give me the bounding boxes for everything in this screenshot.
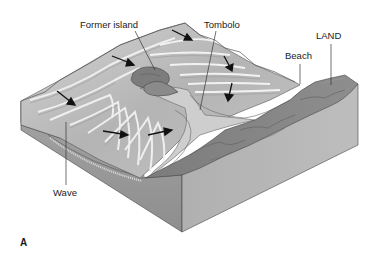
label-land: LAND (316, 31, 341, 41)
tombolo-diagram: Former island Tombolo Beach LAND Wave A (0, 0, 383, 253)
label-tombolo: Tombolo (204, 20, 240, 30)
label-beach: Beach (285, 51, 312, 61)
label-former-island: Former island (80, 20, 138, 30)
panel-letter: A (20, 237, 27, 248)
label-wave: Wave (53, 188, 77, 198)
